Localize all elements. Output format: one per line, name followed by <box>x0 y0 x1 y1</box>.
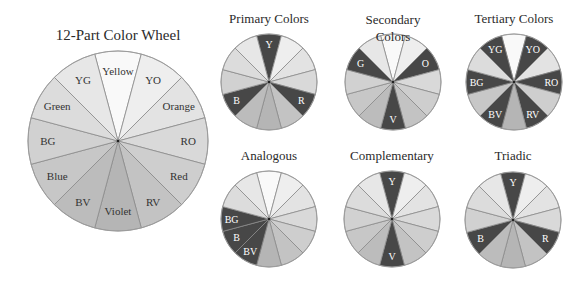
wedge-label: Green <box>44 100 71 112</box>
secondary-wheel: OVG <box>345 34 441 130</box>
wedge-label: Orange <box>163 100 195 112</box>
wedge-label: BG <box>225 214 239 225</box>
wedge-label: O <box>422 58 429 69</box>
main-color-wheel: YellowYOOrangeRORedRVVioletBVBlueBGGreen… <box>28 51 208 231</box>
wedge-label: Y <box>509 177 516 188</box>
wedge-label: V <box>388 251 396 262</box>
wedge-label: R <box>542 233 549 244</box>
wedge-label: V <box>389 114 397 125</box>
wedge-label: BV <box>488 109 503 120</box>
wedge-label: Red <box>170 170 188 182</box>
wedge-label: YO <box>145 74 161 86</box>
wedge-label: Violet <box>105 205 132 217</box>
wedge-label: B <box>477 233 484 244</box>
primary-wheel: YRB <box>221 34 317 130</box>
center-dot <box>268 218 271 221</box>
center-dot <box>391 218 394 221</box>
secondary-title: Secondary Colors <box>353 11 433 45</box>
wedge-label: BV <box>75 196 90 208</box>
center-dot <box>392 81 395 84</box>
wedge-label: R <box>298 95 305 106</box>
center-dot <box>512 219 515 222</box>
wedge-label: B <box>233 95 240 106</box>
wedge-label: Y <box>388 176 395 187</box>
wedge-label: RV <box>146 196 160 208</box>
wedge-label: RV <box>526 109 540 120</box>
wedge-label: Blue <box>47 170 68 182</box>
tertiary-title: Tertiary Colors <box>459 11 569 27</box>
wedge-label: Y <box>265 39 272 50</box>
analogous-wheel: BVBBG <box>221 171 317 267</box>
center-dot <box>513 81 516 84</box>
tertiary-wheel: YORORVBVBGYG <box>466 34 562 130</box>
wedge-label: YG <box>75 74 91 86</box>
wedge-label: YG <box>488 44 502 55</box>
wedge-label: Yellow <box>102 65 133 77</box>
complementary-wheel: YV <box>344 171 440 267</box>
primary-title: Primary Colors <box>214 11 324 27</box>
wedge-label: BG <box>40 135 55 147</box>
wedge-label: G <box>357 58 364 69</box>
wedge-label: B <box>233 232 240 243</box>
wedge-label: BG <box>470 77 484 88</box>
center-dot <box>117 140 120 143</box>
wedge-label: YO <box>525 44 539 55</box>
triadic-wheel: YRB <box>465 172 561 268</box>
triadic-title: Triadic <box>458 148 568 164</box>
analogous-title: Analogous <box>214 148 324 164</box>
wedge-label: BV <box>243 246 258 257</box>
main-wheel-title: 12-Part Color Wheel <box>28 27 208 44</box>
complementary-title: Complementary <box>337 148 447 164</box>
wedge-label: RO <box>181 135 196 147</box>
wedge-label: RO <box>544 77 558 88</box>
center-dot <box>268 81 271 84</box>
